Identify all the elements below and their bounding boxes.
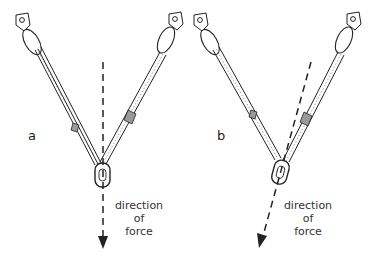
arrow-head-icon (257, 233, 267, 248)
carabiner-right-icon (154, 24, 179, 55)
sling-right (100, 52, 166, 164)
panel-label-a: a (28, 128, 36, 143)
arrow-head-icon (98, 236, 108, 249)
carabiner-left-icon (197, 26, 223, 57)
carabiner-left-icon (19, 26, 45, 57)
anchor-bolt-left-icon (16, 13, 30, 31)
sling-left (35, 47, 101, 165)
sling-left (213, 47, 281, 160)
panel-label-b: b (217, 128, 225, 143)
anchor-bolt-left-icon (194, 13, 208, 31)
force-caption-b: direction of force (277, 199, 339, 238)
carabiner-right-icon (332, 24, 357, 55)
force-caption-a: direction of force (108, 199, 170, 238)
